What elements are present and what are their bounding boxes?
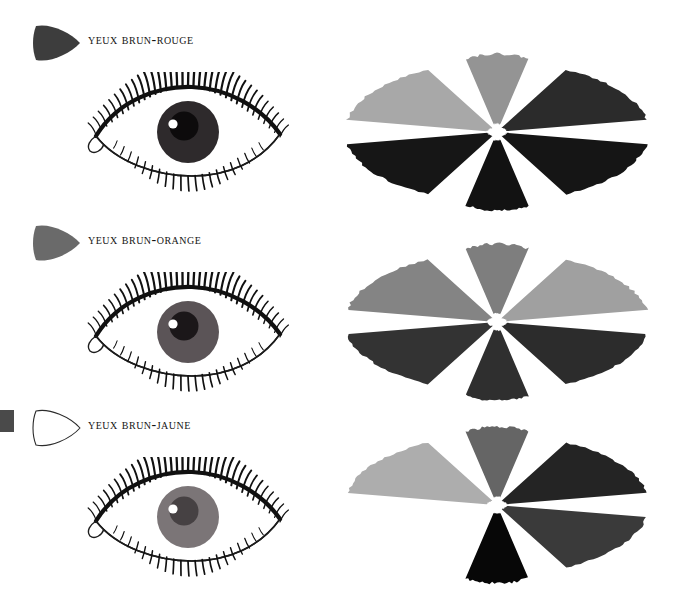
rosette-petal-lower-right (502, 323, 646, 384)
rosette-petal-lower-left (348, 323, 493, 385)
cone-marker-filled-dark (30, 22, 86, 64)
plate-root: Yeux brun-rougeYeux brun-orangeYeux brun… (0, 0, 680, 600)
eye-illustration-brun-jaune (80, 457, 296, 579)
rosette-petal-upper-left (348, 443, 492, 504)
rosette-petal-upper-left (348, 259, 492, 321)
rosette-brun-jaune (322, 425, 672, 585)
cone-shape (33, 25, 80, 60)
type-label: Yeux brun-jaune (88, 417, 191, 433)
eye-highlight (168, 319, 177, 328)
eye-illustration-brun-rouge (80, 72, 296, 194)
type-label: Yeux brun-rouge (88, 32, 194, 48)
cone-marker-filled-medium (30, 222, 86, 264)
type-row-1: Yeux brun-rouge (0, 0, 680, 205)
rosette-petal-upper-left (346, 70, 492, 131)
rosette-petal-upper-right (501, 70, 646, 131)
rosette-petal-upper-right (501, 442, 646, 504)
cone-shape (33, 225, 80, 260)
cone-marker-outline-white (30, 407, 86, 449)
edge-square-marker (0, 410, 14, 432)
rosette-brun-rouge (322, 52, 672, 212)
rosette-petal-upper-right (502, 260, 649, 322)
eye-highlight (168, 119, 177, 128)
eye-highlight (168, 504, 177, 513)
rosette-petal-lower-left (347, 133, 493, 195)
eye-illustration-brun-orange (80, 272, 296, 394)
rosette-petal-lower-right (501, 133, 647, 195)
type-row-3: Yeux brun-jaune (0, 385, 680, 600)
rosette-petal-lower-right (502, 506, 646, 568)
type-row-2: Yeux brun-orange (0, 200, 680, 390)
cone-shape (33, 410, 80, 445)
type-label: Yeux brun-orange (88, 232, 201, 248)
rosette-brun-orange (322, 242, 672, 402)
